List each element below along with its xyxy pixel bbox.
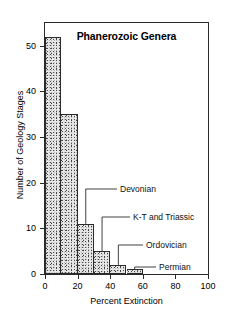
x-axis-tick xyxy=(175,275,176,279)
histogram-bars xyxy=(45,23,208,274)
y-axis-tick xyxy=(40,228,44,229)
histogram-bar xyxy=(45,37,61,274)
x-axis-tick-label: 40 xyxy=(95,281,125,291)
x-axis-tick xyxy=(110,275,111,279)
y-axis-tick xyxy=(40,137,44,138)
y-axis-tick xyxy=(40,183,44,184)
x-axis-tick-label: 60 xyxy=(128,281,158,291)
x-axis-tick xyxy=(78,275,79,279)
x-axis-tick xyxy=(208,275,209,279)
histogram-bar xyxy=(127,269,143,274)
x-axis-label: Percent Extinction xyxy=(44,296,209,307)
x-axis-tick-label: 20 xyxy=(63,281,93,291)
y-axis-tick xyxy=(40,274,44,275)
histogram-bar xyxy=(78,224,94,274)
y-axis-tick xyxy=(40,91,44,92)
y-axis-label: Number of Geology Stages xyxy=(15,60,25,230)
y-axis-tick xyxy=(40,46,44,47)
chart-figure: Phanerozoic Genera 020406080100010203040… xyxy=(0,0,227,324)
x-axis-tick-label: 100 xyxy=(193,281,223,291)
x-axis-tick-label: 0 xyxy=(30,281,60,291)
y-axis-tick-label: 50 xyxy=(8,41,36,51)
y-axis-tick-label: 0 xyxy=(8,269,36,279)
x-axis-tick-label: 80 xyxy=(160,281,190,291)
histogram-bar xyxy=(61,114,77,274)
x-axis-tick xyxy=(143,275,144,279)
histogram-bar xyxy=(110,265,126,274)
x-axis-tick xyxy=(45,275,46,279)
histogram-bar xyxy=(94,251,110,274)
